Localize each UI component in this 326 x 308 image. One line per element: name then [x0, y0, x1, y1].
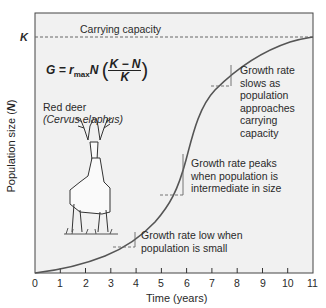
k-tick-label: K	[20, 31, 28, 43]
formula-g: G = r	[46, 63, 74, 77]
formula-n: N	[90, 63, 99, 77]
logistic-growth-chart: K Carrying capacity G = rmaxN (K − NK) R…	[0, 0, 326, 308]
annotation-line: slows as	[240, 77, 295, 90]
logistic-formula: G = rmaxN (K − NK)	[46, 58, 148, 83]
x-tick-label: 5	[158, 277, 164, 289]
annotation-growth-low: Growth rate low when population is small	[141, 229, 243, 254]
annotation-line: carrying	[240, 114, 295, 127]
y-axis-label: Population size (N)	[5, 91, 17, 201]
annotation-growth-slows: Growth rate slows as population approach…	[240, 64, 295, 139]
formula-subscript: max	[74, 70, 90, 79]
deer-species-name: (Cervus elaphus)	[43, 113, 123, 125]
annotation-line: capacity	[240, 127, 295, 140]
deer-common-name: Red deer	[43, 101, 86, 113]
annotation-line: Growth rate low when	[141, 229, 243, 242]
y-axis-label-n: N	[5, 103, 17, 111]
carrying-capacity-label: Carrying capacity	[80, 23, 161, 35]
x-tick-label: 8	[234, 277, 240, 289]
annotation-line: when population is	[191, 170, 281, 183]
annotation-line: Growth rate	[240, 64, 295, 77]
chart-svg	[0, 0, 326, 308]
x-axis-label: Time (years)	[146, 292, 207, 304]
x-tick-label: 3	[108, 277, 114, 289]
x-tick-label: 10	[282, 277, 294, 289]
x-tick-label: 6	[184, 277, 190, 289]
x-tick-label: 4	[133, 277, 139, 289]
x-tick-label: 9	[260, 277, 266, 289]
annotation-growth-peaks: Growth rate peaks when population is int…	[191, 157, 281, 195]
x-tick-label: 7	[209, 277, 215, 289]
annotation-line: population is small	[141, 242, 243, 255]
formula-denominator: K	[108, 71, 141, 83]
annotation-line: Growth rate peaks	[191, 157, 281, 170]
x-tick-label: 2	[83, 277, 89, 289]
annotation-line: intermediate in size	[191, 182, 281, 195]
annotation-line: population	[240, 89, 295, 102]
annotation-line: approaches	[240, 102, 295, 115]
y-axis-label-text: Population size (	[5, 111, 17, 192]
y-axis-label-close: )	[5, 100, 17, 104]
x-tick-label: 0	[32, 277, 38, 289]
x-tick-label: 1	[57, 277, 63, 289]
x-tick-label: 11	[307, 277, 318, 289]
